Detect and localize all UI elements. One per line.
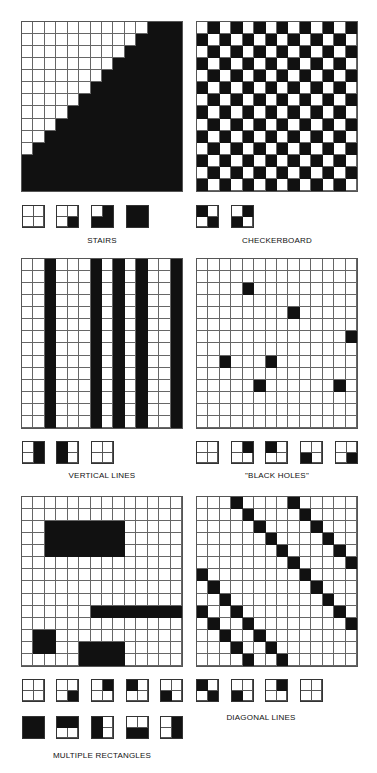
empty-cell (33, 46, 44, 58)
empty-cell (243, 606, 254, 618)
empty-cell (346, 392, 357, 404)
empty-cell (22, 119, 33, 131)
filled-cell (91, 155, 102, 167)
empty-cell (266, 119, 277, 131)
empty-cell (334, 119, 345, 131)
empty-cell (113, 497, 124, 509)
empty-cell (243, 94, 254, 106)
filled-cell (171, 331, 182, 343)
filled-cell (45, 131, 56, 143)
empty-cell (288, 70, 299, 82)
multiple-rectangles-tile2-3 (126, 716, 149, 739)
empty-cell (277, 521, 288, 533)
empty-cell (288, 404, 299, 416)
filled-cell (91, 356, 102, 368)
filled-cell (171, 143, 182, 155)
empty-cell (346, 569, 357, 581)
filled-cell (91, 143, 102, 155)
empty-cell (323, 642, 334, 654)
empty-quadrant (312, 691, 323, 702)
empty-cell (311, 594, 322, 606)
empty-cell (300, 283, 311, 295)
empty-cell (148, 380, 159, 392)
empty-cell (22, 271, 33, 283)
black-holes-tile-2 (265, 441, 288, 464)
empty-quadrant (197, 442, 208, 453)
empty-cell (197, 307, 208, 319)
empty-cell (288, 259, 299, 271)
empty-cell (148, 416, 159, 428)
empty-cell (334, 283, 345, 295)
empty-cell (197, 295, 208, 307)
empty-cell (220, 368, 231, 380)
filled-cell (113, 119, 124, 131)
empty-quadrant (312, 453, 323, 464)
empty-cell (197, 119, 208, 131)
filled-quadrant (57, 453, 68, 464)
empty-cell (208, 654, 219, 666)
empty-cell (45, 606, 56, 618)
empty-cell (208, 82, 219, 94)
filled-cell (113, 94, 124, 106)
empty-cell (197, 581, 208, 593)
empty-cell (346, 58, 357, 70)
filled-cell (220, 58, 231, 70)
empty-cell (288, 283, 299, 295)
empty-cell (113, 46, 124, 58)
empty-cell (22, 319, 33, 331)
empty-cell (277, 343, 288, 355)
empty-cell (79, 581, 90, 593)
empty-cell (79, 331, 90, 343)
empty-cell (300, 155, 311, 167)
filled-cell (171, 179, 182, 191)
empty-cell (334, 630, 345, 642)
empty-cell (68, 343, 79, 355)
empty-cell (311, 497, 322, 509)
empty-cell (220, 404, 231, 416)
filled-cell (171, 271, 182, 283)
filled-cell (45, 404, 56, 416)
empty-cell (56, 307, 67, 319)
empty-cell (125, 295, 136, 307)
filled-cell (171, 82, 182, 94)
empty-cell (56, 22, 67, 34)
filled-cell (220, 131, 231, 143)
empty-cell (231, 557, 242, 569)
filled-cell (136, 319, 147, 331)
filled-cell (197, 34, 208, 46)
empty-cell (323, 380, 334, 392)
empty-cell (277, 404, 288, 416)
filled-cell (231, 46, 242, 58)
filled-quadrant (34, 453, 45, 464)
filled-cell (243, 618, 254, 630)
filled-cell (300, 94, 311, 106)
empty-cell (231, 509, 242, 521)
empty-cell (125, 22, 136, 34)
empty-quadrant (57, 728, 68, 739)
empty-cell (323, 106, 334, 118)
empty-cell (68, 259, 79, 271)
filled-cell (220, 179, 231, 191)
empty-cell (56, 82, 67, 94)
filled-cell (208, 94, 219, 106)
empty-cell (102, 368, 113, 380)
filled-cell (243, 58, 254, 70)
filled-cell (300, 70, 311, 82)
empty-cell (148, 521, 159, 533)
empty-cell (243, 143, 254, 155)
empty-quadrant (92, 453, 103, 464)
empty-quadrant (23, 217, 34, 228)
empty-quadrant (68, 728, 79, 739)
empty-cell (254, 106, 265, 118)
empty-cell (300, 545, 311, 557)
empty-cell (79, 343, 90, 355)
empty-cell (45, 106, 56, 118)
empty-cell (79, 295, 90, 307)
multiple-rectangles-tile2-4 (160, 716, 183, 739)
empty-cell (33, 119, 44, 131)
empty-cell (334, 594, 345, 606)
empty-cell (79, 46, 90, 58)
empty-cell (33, 283, 44, 295)
empty-cell (102, 46, 113, 58)
filled-cell (311, 155, 322, 167)
